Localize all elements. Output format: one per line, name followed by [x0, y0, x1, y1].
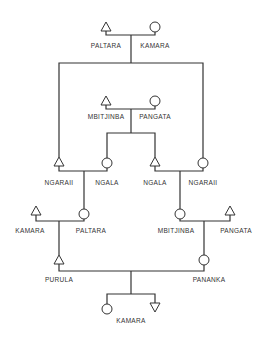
- g2-couple: MBITJINBA PANGATA: [88, 96, 172, 133]
- g4-left-female-label: PALTARA: [76, 227, 107, 234]
- g3-right-male-label: NGALA: [143, 179, 167, 186]
- g2-female-label: PANGATA: [139, 113, 171, 120]
- male-triangle-icon: [31, 206, 41, 215]
- female-circle-icon: [199, 255, 209, 265]
- female-circle-icon: [102, 158, 112, 168]
- g1-female-label: KAMARA: [140, 42, 170, 49]
- g3-left-couple: NGARAII NGALA: [45, 157, 120, 209]
- g3-right-female-label: NGARAII: [189, 179, 218, 186]
- g1-couple: PALTARA KAMARA: [91, 22, 170, 63]
- g4-left-male-label: KAMARA: [15, 227, 45, 234]
- ego-inverted-triangle-icon: [150, 303, 160, 312]
- g4-left-couple: KAMARA PALTARA: [15, 206, 106, 255]
- g4-right-male-label: PANGATA: [220, 227, 252, 234]
- g6-children: KAMARA: [102, 294, 160, 324]
- male-triangle-icon: [225, 206, 235, 215]
- g1-male-label: PALTARA: [91, 42, 122, 49]
- g3-left-female-label: NGALA: [95, 179, 119, 186]
- g5-female-label: PANANKA: [193, 276, 226, 283]
- female-circle-icon: [175, 209, 185, 219]
- male-triangle-icon: [54, 157, 64, 166]
- kinship-diagram: PALTARA KAMARA MBITJINBA PANGATA NGARAII…: [0, 0, 268, 338]
- g5-male-label: PURULA: [45, 276, 74, 283]
- male-triangle-icon: [101, 96, 111, 105]
- g2-male-label: MBITJINBA: [88, 113, 125, 120]
- female-circle-icon: [102, 304, 112, 314]
- male-triangle-icon: [54, 255, 64, 264]
- female-circle-icon: [150, 22, 160, 32]
- g5-couple: PURULA PANANKA: [45, 255, 226, 294]
- g2-children-line: [107, 133, 155, 158]
- male-triangle-icon: [101, 22, 111, 31]
- female-circle-icon: [198, 158, 208, 168]
- g3-right-couple: NGALA NGARAII: [143, 157, 217, 209]
- female-circle-icon: [79, 209, 89, 219]
- g4-right-couple: MBITJINBA PANGATA: [158, 206, 253, 255]
- g3-left-male-label: NGARAII: [45, 179, 74, 186]
- g6-children-label: KAMARA: [116, 317, 146, 324]
- g4-right-female-label: MBITJINBA: [158, 227, 195, 234]
- male-triangle-icon: [150, 157, 160, 166]
- female-circle-icon: [150, 96, 160, 106]
